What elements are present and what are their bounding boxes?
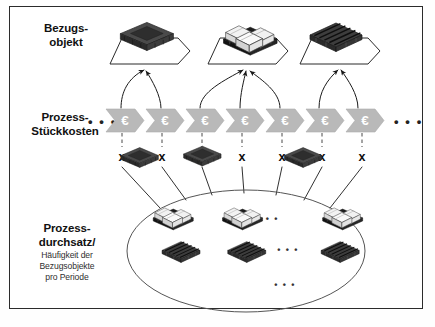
radial-4 — [242, 167, 244, 193]
arrow-c5-o2 — [250, 71, 280, 108]
diagram-canvas: € — [0, 0, 435, 327]
throughput-pallet-group — [162, 242, 359, 263]
bezugsobjekt-object-2 — [224, 26, 278, 55]
chevron-to-multiply-links — [122, 133, 362, 147]
throughput-boxpallet-group — [153, 208, 362, 230]
multiply-4: x — [239, 150, 246, 164]
radial-6 — [304, 167, 322, 200]
cost-chevron-chain — [106, 109, 384, 132]
arrow-c2-o1 — [146, 71, 161, 108]
radial-7 — [330, 167, 362, 208]
cost-to-object-arrows — [121, 70, 358, 112]
multiply-7: x — [359, 150, 366, 164]
multiply-2: x — [159, 150, 166, 164]
arrow-c3-o2 — [200, 70, 243, 108]
arrow-c4-o2 — [240, 71, 246, 108]
radial-2 — [162, 167, 186, 200]
bezugsobjekt-object-3 — [310, 23, 362, 52]
radial-1 — [122, 167, 160, 208]
bezugsobjekt-object-1 — [120, 22, 173, 50]
arrow-c6-o3 — [319, 70, 338, 108]
pallet-group-ellipsis: • • • — [274, 280, 295, 290]
arrow-c7-o3 — [341, 70, 358, 108]
throughput-radial-lines — [122, 167, 362, 208]
arrow-c1-o1 — [121, 70, 144, 108]
boxpallet-group-ellipsis: • • • — [277, 245, 298, 255]
throughput-crate-group — [121, 146, 322, 167]
radial-3 — [202, 167, 212, 195]
figure-root: Bezugs- objekt Prozess- Stückkosten Proz… — [0, 0, 435, 327]
radial-5 — [276, 167, 282, 195]
